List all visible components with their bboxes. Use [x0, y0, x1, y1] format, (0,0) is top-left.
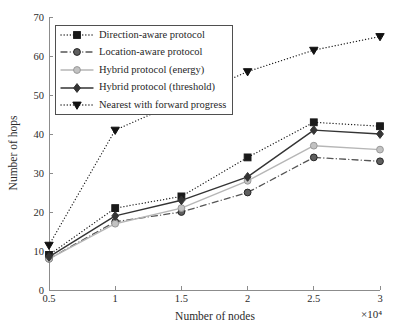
hybrid-protocol-energy-marker: [112, 220, 119, 227]
x-tick-label: 1: [113, 293, 118, 304]
x-axis-label: Number of nodes: [175, 310, 255, 322]
legend-label: Nearest with forward progress: [99, 100, 226, 111]
nearest-with-forward-progress-legend-marker: [73, 102, 81, 109]
legend-item: Hybrid protocol (threshold): [56, 79, 232, 97]
legend-label: Hybrid protocol (threshold): [99, 82, 215, 93]
hybrid-protocol-threshold-marker: [377, 130, 384, 139]
nearest-with-forward-progress-marker: [376, 34, 384, 41]
hybrid-protocol-energy-marker: [377, 146, 384, 153]
legend-box: Direction-aware protocolLocation-aware p…: [55, 25, 233, 115]
y-tick-label: 60: [34, 51, 45, 62]
hybrid-protocol-threshold-legend-marker: [74, 83, 81, 92]
y-tick-label: 30: [34, 168, 45, 179]
series-hybrid-protocol-threshold: [46, 126, 384, 262]
location-aware-protocol-legend-marker: [74, 49, 81, 56]
legend-sample-nearest-with-forward-progress: [60, 99, 94, 111]
legend-sample-location-aware-protocol: [60, 46, 94, 58]
direction-aware-protocol-marker: [377, 123, 384, 130]
x-tick-label: 2: [245, 293, 250, 304]
y-tick-label: 50: [34, 90, 45, 101]
hybrid-protocol-energy-legend-marker: [74, 67, 81, 74]
location-aware-protocol-marker: [377, 158, 384, 165]
nearest-with-forward-progress-marker: [45, 242, 53, 249]
y-tick-label: 20: [34, 207, 45, 218]
legend-item: Direction-aware protocol: [56, 26, 232, 44]
direction-aware-protocol-marker: [310, 119, 317, 126]
hybrid-protocol-energy-marker: [178, 205, 185, 212]
direction-aware-protocol-marker: [112, 205, 119, 212]
legend-label: Hybrid protocol (energy): [99, 65, 204, 76]
legend-label: Direction-aware protocol: [99, 30, 205, 41]
direction-aware-protocol-marker: [244, 154, 251, 161]
y-tick-label: 10: [34, 246, 45, 257]
nearest-with-forward-progress-marker: [243, 69, 251, 76]
location-aware-protocol-line: [49, 157, 380, 258]
x-tick-label: 1.5: [175, 293, 188, 304]
hybrid-protocol-energy-marker: [310, 142, 317, 149]
direction-aware-protocol-legend-marker: [74, 31, 81, 38]
legend-sample-direction-aware-protocol: [60, 29, 94, 41]
legend-sample-hybrid-protocol-energy: [60, 64, 94, 76]
legend-item: Nearest with forward progress: [56, 96, 232, 114]
x-tick-label: 2.5: [307, 293, 320, 304]
legend-item: Location-aware protocol: [56, 44, 232, 62]
hybrid-protocol-threshold-line: [49, 130, 380, 257]
x-axis-multiplier: ×10⁴: [361, 308, 382, 320]
series-location-aware-protocol: [46, 154, 384, 262]
location-aware-protocol-marker: [310, 154, 317, 161]
nearest-with-forward-progress-marker: [111, 127, 119, 134]
legend-item: Hybrid protocol (energy): [56, 61, 232, 79]
legend-sample-hybrid-protocol-threshold: [60, 82, 94, 94]
line-chart-figure: 0.511.522.53010203040506070 Number of ho…: [0, 0, 404, 333]
y-axis-label: Number of hops: [7, 116, 19, 191]
y-tick-label: 40: [34, 129, 45, 140]
y-tick-label: 70: [34, 12, 45, 23]
hybrid-protocol-threshold-marker: [310, 126, 317, 135]
x-tick-label: 0.5: [42, 293, 55, 304]
location-aware-protocol-marker: [244, 189, 251, 196]
y-tick-label: 0: [39, 285, 44, 296]
x-tick-label: 3: [377, 293, 382, 304]
legend-label: Location-aware protocol: [99, 47, 203, 58]
